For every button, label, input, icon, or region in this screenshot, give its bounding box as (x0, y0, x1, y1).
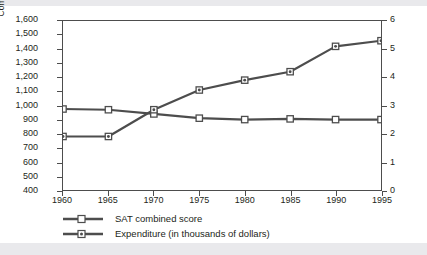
y-right-tick-label: 3 (390, 100, 410, 110)
y-right-tick-mark (382, 134, 387, 135)
legend-item-sat: SAT combined score (62, 211, 270, 226)
data-point-marker (332, 116, 338, 122)
top-band (0, 0, 427, 6)
y-left-tick-mark (57, 148, 62, 149)
data-point-center-dot (152, 108, 155, 111)
y-left-tick-label: 400 (0, 185, 38, 195)
data-point-marker (105, 107, 111, 113)
chart-legend: SAT combined score Expenditure (in thous… (62, 211, 270, 241)
x-tick-label: 1965 (83, 195, 133, 205)
y-right-tick-mark (382, 163, 387, 164)
y-left-tick-label: 1,500 (0, 28, 38, 38)
y-left-tick-mark (57, 34, 62, 35)
y-left-tick-label: 1,400 (0, 43, 38, 53)
y-right-tick-mark (382, 106, 387, 107)
y-left-tick-mark (57, 106, 62, 107)
x-tick-label: 1980 (220, 195, 270, 205)
x-tick-label: 1985 (266, 195, 316, 205)
chart-figure: Combined SAT Score Expenditure (thousand… (0, 0, 427, 255)
series-expenditure (63, 38, 381, 140)
y-right-tick-label: 5 (390, 43, 410, 53)
x-tick-mark (336, 191, 337, 196)
y-left-tick-mark (57, 163, 62, 164)
series-sat (63, 106, 381, 123)
y-left-tick-mark (57, 134, 62, 135)
x-tick-mark (199, 191, 200, 196)
y-left-tick-label: 700 (0, 142, 38, 152)
x-tick-mark (291, 191, 292, 196)
legend-label-expenditure: Expenditure (in thousands of dollars) (115, 228, 270, 239)
x-tick-label: 1995 (357, 195, 407, 205)
y-right-tick-mark (382, 20, 387, 21)
x-tick-label: 1990 (311, 195, 361, 205)
x-tick-label: 1975 (174, 195, 224, 205)
x-tick-mark (382, 191, 383, 196)
data-point-center-dot (243, 79, 246, 82)
y-left-tick-label: 1,600 (0, 14, 38, 24)
y-left-tick-mark (57, 177, 62, 178)
data-point-marker (63, 106, 66, 112)
data-point-center-dot (107, 135, 110, 138)
y-left-tick-mark (57, 20, 62, 21)
legend-marker-dotted-square-icon (62, 228, 104, 240)
data-point-center-dot (289, 70, 292, 73)
data-point-marker (242, 116, 248, 122)
bottom-band (0, 243, 427, 255)
data-point-marker (378, 116, 381, 122)
y-left-tick-label: 900 (0, 114, 38, 124)
legend-label-sat: SAT combined score (115, 213, 202, 224)
plot-svg (63, 21, 381, 190)
y-left-tick-mark (57, 77, 62, 78)
data-point-marker (287, 116, 293, 122)
x-tick-label: 1970 (128, 195, 178, 205)
y-left-tick-mark (57, 49, 62, 50)
y-left-tick-label: 1,200 (0, 71, 38, 81)
plot-area (62, 20, 382, 191)
legend-item-expenditure: Expenditure (in thousands of dollars) (62, 226, 270, 241)
x-tick-mark (108, 191, 109, 196)
data-point-center-dot (198, 89, 201, 92)
y-left-tick-mark (57, 63, 62, 64)
data-point-marker (196, 115, 202, 121)
x-tick-mark (62, 191, 63, 196)
y-left-tick-mark (57, 120, 62, 121)
y-left-tick-label: 500 (0, 171, 38, 181)
y-left-tick-label: 800 (0, 128, 38, 138)
y-right-tick-label: 6 (390, 14, 410, 24)
x-tick-mark (245, 191, 246, 196)
y-left-tick-mark (57, 91, 62, 92)
y-left-tick-label: 1,000 (0, 100, 38, 110)
x-tick-label: 1960 (37, 195, 87, 205)
y-right-tick-label: 4 (390, 71, 410, 81)
y-left-tick-label: 1,300 (0, 57, 38, 67)
y-right-tick-mark (382, 77, 387, 78)
y-right-tick-label: 1 (390, 157, 410, 167)
legend-marker-open-square-icon (62, 213, 104, 225)
data-point-center-dot (334, 45, 337, 48)
y-right-tick-label: 0 (390, 185, 410, 195)
y-right-tick-label: 2 (390, 128, 410, 138)
y-left-tick-label: 600 (0, 157, 38, 167)
y-axis-right-title: Expenditure (thousands of dollars) (401, 0, 411, 14)
y-right-tick-mark (382, 49, 387, 50)
x-tick-mark (153, 191, 154, 196)
y-left-tick-label: 1,100 (0, 85, 38, 95)
